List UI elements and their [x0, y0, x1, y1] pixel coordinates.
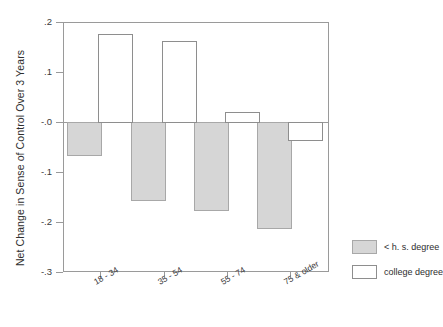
- y-tick-mark: [56, 72, 63, 73]
- bars-layer: [63, 22, 329, 272]
- y-tick-mark: [56, 122, 63, 123]
- legend-label-college-degree: college degree: [384, 267, 443, 277]
- y-tick-mark: [56, 222, 63, 223]
- bar-low-degree: [131, 122, 166, 201]
- y-tick-label: -.3: [12, 266, 52, 277]
- bar-low-degree: [67, 122, 102, 156]
- legend-swatch-gray-icon: [352, 240, 377, 254]
- y-tick-mark: [56, 22, 63, 23]
- y-tick-label: -.0: [12, 116, 52, 127]
- y-tick-mark: [56, 172, 63, 173]
- bar-low-degree: [194, 122, 229, 211]
- bar-college-degree: [225, 112, 260, 123]
- legend-item-low-degree: < h. s. degree: [352, 240, 443, 254]
- chart-legend: < h. s. degree college degree: [352, 240, 443, 290]
- y-tick-mark: [56, 272, 63, 273]
- bar-college-degree: [162, 41, 197, 123]
- y-tick-label: .1: [12, 66, 52, 77]
- y-tick-label: .2: [12, 16, 52, 27]
- legend-swatch-white-icon: [352, 265, 377, 279]
- legend-label-low-degree: < h. s. degree: [384, 242, 439, 252]
- y-tick-label: -.1: [12, 166, 52, 177]
- bar-low-degree: [257, 122, 292, 229]
- legend-item-college-degree: college degree: [352, 265, 443, 279]
- bar-college-degree: [288, 122, 323, 141]
- bar-college-degree: [98, 34, 133, 123]
- y-tick-label: -.2: [12, 216, 52, 227]
